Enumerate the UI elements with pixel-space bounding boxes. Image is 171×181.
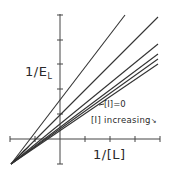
axes (10, 14, 160, 164)
lineweaver-burk-plot: 1/EL 1/[L] [I]=0 [I] increasing↘ (0, 0, 171, 181)
trend-annotation: [I] increasing↘ (91, 115, 157, 125)
line-4 (11, 44, 158, 164)
trend-arrow-icon: ↘ (151, 117, 157, 125)
line-highest-inhibitor (11, 15, 125, 164)
x-axis-label: 1/[L] (93, 147, 126, 162)
plot-canvas (0, 0, 171, 181)
baseline-annotation: [I]=0 (104, 99, 126, 109)
y-axis-label: 1/EL (25, 64, 52, 81)
